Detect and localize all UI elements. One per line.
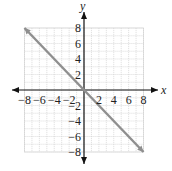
coordinate-plane: −8−6−4−224688642−2−4−6−8 x y <box>0 0 172 171</box>
y-axis-label: y <box>79 0 86 13</box>
y-tick-label: −6 <box>68 130 81 144</box>
x-tick-label: 2 <box>96 93 102 107</box>
y-axis-arrow-up-icon <box>81 12 87 19</box>
x-tick-label: 8 <box>141 93 147 107</box>
y-tick-label: 4 <box>75 52 81 66</box>
y-tick-label: −4 <box>68 114 81 128</box>
y-tick-label: 8 <box>75 21 81 35</box>
y-tick-label: −2 <box>68 99 81 113</box>
x-axis-arrow-right-icon <box>151 87 158 93</box>
y-axis-arrow-down-icon <box>81 157 87 164</box>
y-tick-label: 6 <box>75 37 81 51</box>
x-axis-label: x <box>160 83 167 97</box>
x-tick-label: 6 <box>126 93 132 107</box>
x-tick-label: −4 <box>48 93 61 107</box>
x-tick-label: −6 <box>33 93 46 107</box>
y-tick-label: 2 <box>75 68 81 82</box>
x-tick-label: −8 <box>18 93 31 107</box>
y-tick-label: −8 <box>68 145 81 159</box>
x-tick-label: 4 <box>111 93 117 107</box>
